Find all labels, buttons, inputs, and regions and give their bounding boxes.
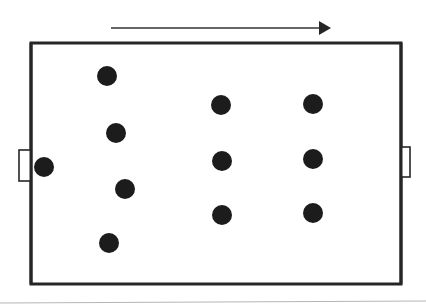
direction-arrow <box>111 21 331 35</box>
field-diagram <box>0 0 426 308</box>
player-defender-dot <box>106 123 126 143</box>
player-goalkeeper-dot <box>34 157 54 177</box>
player-defender-dot <box>99 233 119 253</box>
player-forward-dot <box>303 203 323 223</box>
baseline-line <box>0 301 426 303</box>
players <box>34 66 323 253</box>
player-forward-dot <box>303 149 323 169</box>
arrow-head-icon <box>319 21 331 35</box>
left-goal <box>19 150 31 181</box>
player-midfielder-dot <box>212 205 232 225</box>
player-midfielder-dot <box>211 95 231 115</box>
page-baseline-divider <box>0 301 426 303</box>
player-forward-dot <box>303 94 323 114</box>
player-defender-dot <box>115 179 135 199</box>
player-midfielder-dot <box>212 151 232 171</box>
player-defender-dot <box>97 66 117 86</box>
